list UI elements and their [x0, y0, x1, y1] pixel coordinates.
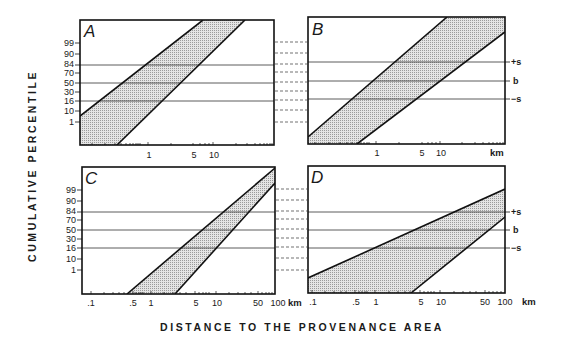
figure-canvas: CUMULATIVE PERCENTILE DISTANCE TO THE PR…	[0, 0, 564, 348]
x-tick-label: 100	[270, 298, 285, 308]
panel-a-band	[80, 20, 245, 145]
x-tick-label: .5	[352, 297, 360, 307]
panel-a-letter: A	[83, 22, 95, 41]
plus-s-label: +s	[511, 207, 521, 217]
km-label: km	[490, 147, 504, 158]
x-tick-label: 10	[209, 150, 219, 160]
y-tick-label: 90	[64, 49, 74, 59]
y-tick-label: 70	[66, 215, 76, 225]
panel-a: A 99 90 84 70 50 30 16 10 1	[64, 20, 274, 160]
x-tick-label: 100	[497, 297, 512, 307]
y-tick-label: 10	[66, 254, 76, 264]
x-tick-label: 10	[436, 297, 446, 307]
y-tick-label: 99	[64, 38, 74, 48]
x-tick-label: 5	[191, 150, 196, 160]
x-tick-label: 10	[212, 298, 222, 308]
x-tick-label: 5	[419, 148, 424, 158]
y-tick-label: 16	[64, 96, 74, 106]
panel-d-letter: D	[311, 168, 323, 187]
x-tick-label: 1	[146, 150, 151, 160]
panel-b-letter: B	[312, 20, 323, 39]
x-tick-label: 1	[148, 298, 153, 308]
panel-d: D +s b −s .1 .5 1	[308, 166, 536, 307]
x-tick-label: .5	[129, 298, 137, 308]
x-tick-label: 50	[480, 297, 490, 307]
km-label: km	[288, 297, 302, 308]
y-tick-label: 16	[66, 243, 76, 253]
connector-lines-top	[275, 42, 307, 122]
x-tick-label: 50	[253, 298, 263, 308]
x-tick-label: .1	[87, 298, 95, 308]
x-tick-label: 1	[374, 148, 379, 158]
b-label: b	[513, 76, 519, 86]
x-tick-label: 10	[436, 148, 446, 158]
x-tick-label: 5	[418, 297, 423, 307]
km-label: km	[522, 296, 536, 307]
minus-s-label: −s	[511, 94, 521, 104]
y-tick-label: 1	[71, 265, 76, 275]
panel-b: B +s b −s 1 5 10 km	[308, 17, 521, 158]
panel-c-letter: C	[85, 169, 98, 188]
y-tick-label: 1	[69, 117, 74, 127]
y-tick-label: 99	[66, 185, 76, 195]
panel-c: C 99 90 84 70 50 30 16 10 1	[66, 167, 302, 308]
y-tick-label: 90	[66, 196, 76, 206]
minus-s-label: −s	[511, 243, 521, 253]
x-tick-label: 5	[193, 298, 198, 308]
x-tick-label: .1	[309, 297, 317, 307]
x-axis-title: DISTANCE TO THE PROVENANCE AREA	[160, 321, 444, 333]
connector-lines-bottom	[276, 189, 307, 270]
y-tick-label: 70	[64, 68, 74, 78]
b-label: b	[513, 225, 519, 235]
plus-s-label: +s	[511, 57, 521, 67]
y-axis-title: CUMULATIVE PERCENTILE	[26, 70, 38, 262]
y-tick-label: 10	[64, 106, 74, 116]
x-tick-label: 1	[373, 297, 378, 307]
panel-b-band	[308, 17, 505, 144]
